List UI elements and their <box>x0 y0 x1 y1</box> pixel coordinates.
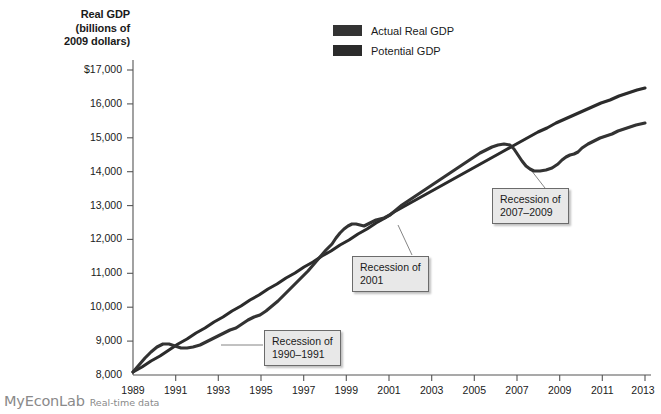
callout-1990-1991-line-2: 1990–1991 <box>272 348 333 361</box>
y-tick-label-8000: 8,000 <box>56 369 122 380</box>
y-tick-label-10000: 10,000 <box>56 301 122 312</box>
leader-line-recession-2007-2009 <box>531 170 545 188</box>
x-tick-label-1997: 1997 <box>284 385 324 396</box>
x-tick-label-2009: 2009 <box>540 385 580 396</box>
x-tick-label-2007: 2007 <box>497 385 537 396</box>
leader-line-recession-2001 <box>398 225 412 255</box>
callout-recession-1990-1991: Recession of 1990–1991 <box>264 330 341 366</box>
y-tick-label-13000: 13,000 <box>56 200 122 211</box>
y-tick-label-17000: $17,000 <box>56 64 122 75</box>
y-tick-label-14000: 14,000 <box>56 166 122 177</box>
chart-figure: Real GDP (billions of 2009 dollars) Actu… <box>0 0 661 414</box>
x-tick-label-1999: 1999 <box>326 385 366 396</box>
x-tick-label-2003: 2003 <box>412 385 452 396</box>
x-axis-ticks <box>176 375 645 381</box>
callout-recession-2007-2009: Recession of 2007–2009 <box>492 188 569 224</box>
x-tick-label-2001: 2001 <box>369 385 409 396</box>
footer-brand-myeconlab: MyEconLab <box>4 393 85 409</box>
footer-realtime-data-label: Real-time data <box>90 397 160 408</box>
x-tick-label-2013: 2013 <box>623 385 661 396</box>
x-tick-label-1993: 1993 <box>198 385 238 396</box>
callout-2007-2009-line-2: 2007–2009 <box>500 206 561 219</box>
x-tick-label-1995: 1995 <box>241 385 281 396</box>
y-tick-label-11000: 11,000 <box>56 267 122 278</box>
y-tick-label-9000: 9,000 <box>56 335 122 346</box>
y-tick-label-12000: 12,000 <box>56 233 122 244</box>
y-tick-label-16000: 16,000 <box>56 98 122 109</box>
callout-recession-2001: Recession of 2001 <box>352 256 429 292</box>
callout-2007-2009-line-1: Recession of <box>500 193 561 206</box>
footer: MyEconLab Real-time data <box>4 393 159 409</box>
y-axis-ticks <box>127 70 133 341</box>
series-line-actual-real-gdp <box>133 123 645 372</box>
callout-1990-1991-line-1: Recession of <box>272 335 333 348</box>
x-tick-label-2011: 2011 <box>582 385 622 396</box>
x-tick-label-1991: 1991 <box>156 385 196 396</box>
x-tick-label-2005: 2005 <box>454 385 494 396</box>
callout-2001-line-2: 2001 <box>360 274 421 287</box>
series-line-potential-gdp <box>133 88 645 372</box>
y-tick-label-15000: 15,000 <box>56 132 122 143</box>
callout-2001-line-1: Recession of <box>360 261 421 274</box>
